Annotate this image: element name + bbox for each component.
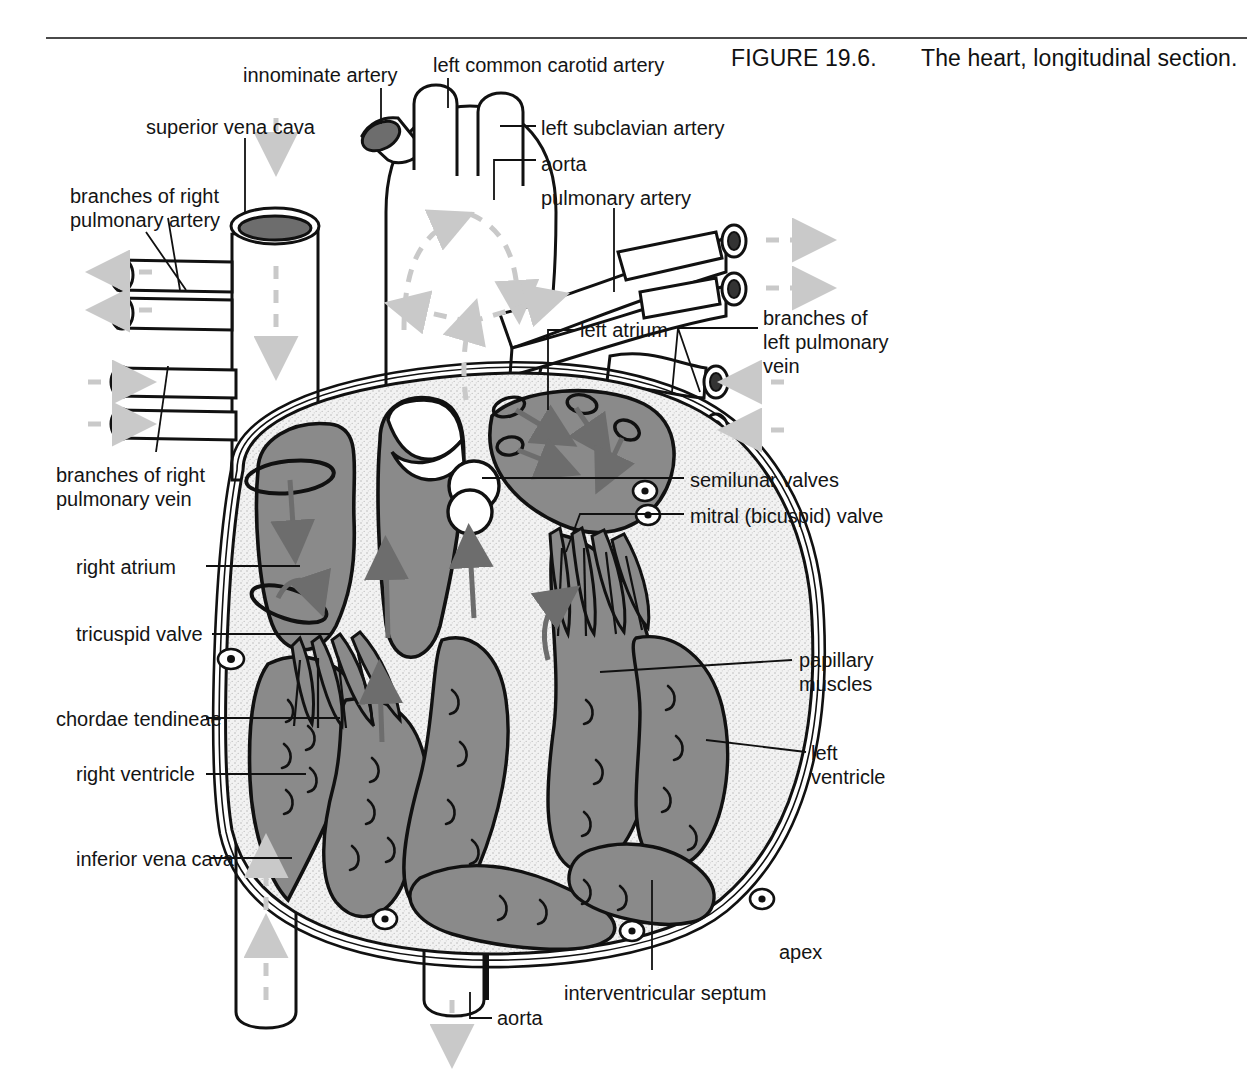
label-left-subclavian-artery: left subclavian artery xyxy=(541,116,724,140)
label-pulmonary-artery: pulmonary artery xyxy=(541,186,691,210)
label-left-common-carotid-artery: left common carotid artery xyxy=(433,53,664,77)
label-apex: apex xyxy=(779,940,822,964)
arrow-rv-up-2 xyxy=(380,684,382,742)
right-pulmonary-artery-branch-2 xyxy=(118,298,232,330)
label-innominate-artery: innominate artery xyxy=(243,63,398,87)
label-interventricular-septum: interventricular septum xyxy=(564,981,766,1005)
right-vessel-lumens xyxy=(111,259,133,439)
figure-canvas: FIGURE 19.6. The heart, longitudinal sec… xyxy=(0,0,1247,1083)
label-branches-of-left-pulmonary-vein: branches of left pulmonary vein xyxy=(763,306,889,378)
label-left-ventricle: left ventricle xyxy=(811,741,885,789)
heart-longitudinal-section-diagram xyxy=(0,0,1247,1083)
label-aorta-descending: aorta xyxy=(497,1006,543,1030)
right-pulmonary-vein-branch-2 xyxy=(118,410,236,440)
arrow-rv-up xyxy=(386,560,388,638)
label-branches-of-right-pulmonary-artery: branches of right pulmonary artery xyxy=(70,184,220,232)
label-right-ventricle: right ventricle xyxy=(76,762,195,786)
right-pulmonary-vein-branch-1 xyxy=(118,368,236,398)
svc-lumen xyxy=(239,216,311,240)
label-superior-vena-cava: superior vena cava xyxy=(146,115,315,139)
label-branches-of-right-pulmonary-vein: branches of right pulmonary vein xyxy=(56,463,205,511)
label-papillary-muscles: papillary muscles xyxy=(799,648,873,696)
left-common-carotid-vessel xyxy=(414,85,457,176)
label-mitral-bicuspid-valve: mitral (bicuspid) valve xyxy=(690,504,883,528)
aortic-semilunar-valve-cusp-2 xyxy=(448,490,492,534)
label-right-atrium: right atrium xyxy=(76,555,176,579)
label-semilunar-valves: semilunar valves xyxy=(690,468,839,492)
label-tricuspid-valve: tricuspid valve xyxy=(76,622,203,646)
left-subclavian-vessel xyxy=(478,93,523,186)
right-atrium-chamber xyxy=(257,423,355,649)
label-inferior-vena-cava: inferior vena cava xyxy=(76,847,234,871)
label-chordae-tendineae: chordae tendineae xyxy=(56,707,222,731)
label-aorta-arch: aorta xyxy=(541,152,587,176)
label-left-atrium: left atrium xyxy=(580,318,668,342)
